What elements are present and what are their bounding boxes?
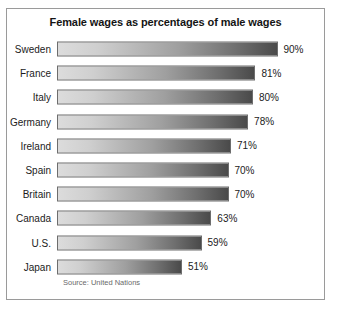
chart-frame: Female wages as percentages of male wage…: [6, 8, 325, 300]
bar-track: 81%: [57, 66, 320, 81]
bar: [57, 163, 229, 178]
category-label: Sweden: [7, 44, 51, 55]
category-label: Britain: [7, 189, 51, 200]
category-label: Japan: [7, 261, 51, 272]
bar-track: 63%: [57, 211, 320, 226]
category-label: Germany: [7, 116, 51, 127]
bar-row: Spain70%: [7, 158, 324, 182]
bar: [57, 235, 202, 250]
category-label: Ireland: [7, 140, 51, 151]
category-label: Italy: [7, 92, 51, 103]
bar-value-label: 70%: [235, 165, 255, 176]
bar-value-label: 81%: [261, 68, 281, 79]
bar-value-label: 51%: [188, 261, 208, 272]
bar-chart-plot-area: Sweden90%France81%Italy80%Germany78%Irel…: [7, 37, 324, 299]
bar-row: Canada63%: [7, 206, 324, 230]
bar-row: France81%: [7, 61, 324, 85]
bar: [57, 114, 248, 129]
bar: [57, 66, 255, 81]
bar: [57, 42, 278, 57]
bar-value-label: 80%: [259, 92, 279, 103]
category-label: Spain: [7, 165, 51, 176]
bar: [57, 90, 253, 105]
bar-row: Sweden90%: [7, 37, 324, 61]
bar-track: 78%: [57, 114, 320, 129]
bar-track: 70%: [57, 163, 320, 178]
bar-row: U.S.59%: [7, 231, 324, 255]
bar-value-label: 90%: [284, 44, 304, 55]
bar: [57, 138, 231, 153]
chart-title: Female wages as percentages of male wage…: [7, 16, 324, 28]
chart-page: Female wages as percentages of male wage…: [0, 0, 340, 315]
bar-row: Italy80%: [7, 85, 324, 109]
category-label: Canada: [7, 213, 51, 224]
bar: [57, 187, 229, 202]
bar-row: Britain70%: [7, 182, 324, 206]
bar-row: Germany78%: [7, 110, 324, 134]
bar-track: 59%: [57, 235, 320, 250]
bar-value-label: 59%: [208, 237, 228, 248]
bar-value-label: 63%: [217, 213, 237, 224]
bar: [57, 211, 211, 226]
bar-value-label: 71%: [237, 140, 257, 151]
bar-row: Ireland71%: [7, 134, 324, 158]
category-label: France: [7, 68, 51, 79]
bar-row: Japan51%: [7, 255, 324, 279]
category-label: U.S.: [7, 237, 51, 248]
bar-track: 80%: [57, 90, 320, 105]
bar-value-label: 78%: [254, 116, 274, 127]
bar-track: 90%: [57, 42, 320, 57]
bar-track: 70%: [57, 187, 320, 202]
source-note: Source: United Nations: [63, 278, 140, 287]
bar-track: 51%: [57, 259, 320, 274]
bar: [57, 259, 182, 274]
bar-value-label: 70%: [235, 189, 255, 200]
bar-track: 71%: [57, 138, 320, 153]
